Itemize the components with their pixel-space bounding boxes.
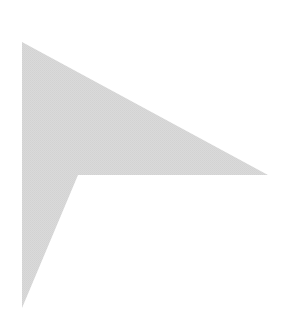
canvas bbox=[0, 0, 286, 326]
arrowhead-right-icon bbox=[0, 0, 286, 326]
arrow-shape bbox=[22, 42, 268, 308]
